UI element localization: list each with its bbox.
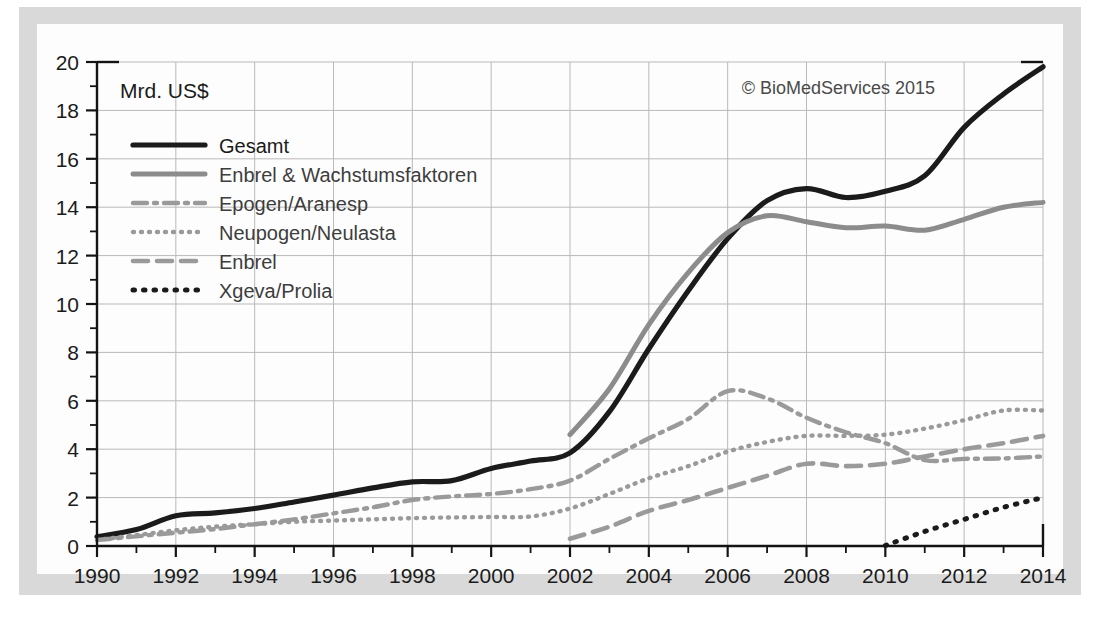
x-tick-labels-group: 1990199219941996199820002002200420062008… [74, 564, 1067, 587]
legend-label: Enbrel [219, 251, 277, 273]
legend-label: Gesamt [219, 135, 289, 157]
x-tick-label: 1994 [231, 564, 278, 587]
x-tick-label: 2006 [704, 564, 751, 587]
x-tick-label: 2010 [862, 564, 909, 587]
x-tick-label: 2002 [547, 564, 594, 587]
x-tick-label: 2000 [468, 564, 515, 587]
y-tick-label: 2 [67, 487, 79, 510]
legend-label: Neupogen/Neulasta [219, 222, 397, 244]
y-tick-labels-group: 02468101214161820 [56, 51, 80, 558]
y-tick-label: 16 [56, 148, 79, 171]
axis-unit-label: Mrd. US$ [120, 79, 209, 102]
legend-label: Xgeva/Prolia [219, 280, 333, 302]
legend: GesamtEnbrel & WachstumsfaktorenEpogen/A… [133, 135, 477, 302]
y-tick-label: 0 [67, 535, 79, 558]
line-chart: 02468101214161820 1990199219941996199820… [0, 0, 1099, 642]
copyright-credit: © BioMedServices 2015 [742, 78, 935, 98]
y-tick-label: 20 [56, 51, 79, 74]
y-tick-label: 14 [56, 196, 80, 219]
x-tick-label: 2012 [941, 564, 988, 587]
y-tick-label: 4 [67, 438, 79, 461]
x-tick-label: 1990 [74, 564, 121, 587]
legend-label: Epogen/Aranesp [219, 193, 368, 215]
y-tick-label: 18 [56, 99, 79, 122]
x-tick-label: 1996 [310, 564, 357, 587]
x-tick-label: 2014 [1020, 564, 1067, 587]
x-tick-label: 1998 [389, 564, 436, 587]
x-tick-label: 2008 [783, 564, 830, 587]
x-tick-label: 2004 [625, 564, 672, 587]
chart-page: 02468101214161820 1990199219941996199820… [0, 0, 1099, 642]
y-tick-label: 12 [56, 245, 79, 268]
y-tick-label: 8 [67, 341, 79, 364]
y-tick-label: 6 [67, 390, 79, 413]
legend-label: Enbrel & Wachstumsfaktoren [219, 164, 477, 186]
y-tick-label: 10 [56, 293, 79, 316]
x-tick-label: 1992 [152, 564, 199, 587]
